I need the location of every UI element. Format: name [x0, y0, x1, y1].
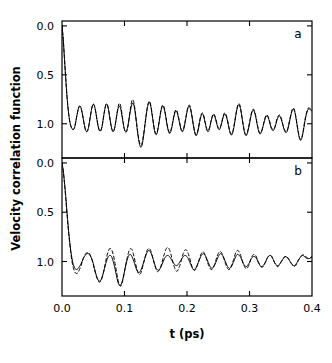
- curves-b: [62, 163, 312, 286]
- panel-frame-a: [62, 21, 312, 158]
- y-tick-label-a-1: 0.5: [37, 69, 55, 82]
- x-tick-label-2: 0.2: [178, 302, 196, 315]
- y-tick-label-b-2: 0.0: [37, 157, 55, 170]
- curve-a-solid: [62, 26, 312, 147]
- velocity-correlation-figure: a1.00.50.0b1.00.50.00.00.10.20.30.4t (ps…: [0, 0, 332, 363]
- y-tick-label-a-2: 0.0: [37, 20, 55, 33]
- plot-canvas: a1.00.50.0b1.00.50.00.00.10.20.30.4t (ps…: [0, 0, 332, 363]
- curves-a: [62, 26, 312, 147]
- panel-tag-b: b: [294, 164, 302, 178]
- panel-tag-a: a: [294, 27, 301, 41]
- y-axis-title: Velocity correlation function: [9, 66, 23, 250]
- y-tick-label-b-0: 1.0: [37, 256, 55, 269]
- x-tick-label-1: 0.1: [116, 302, 134, 315]
- x-tick-label-4: 0.4: [303, 302, 321, 315]
- x-tick-label-3: 0.3: [241, 302, 259, 315]
- x-tick-label-0: 0.0: [53, 302, 71, 315]
- panel-a: a1.00.50.0: [37, 20, 313, 158]
- y-tick-label-b-1: 0.5: [37, 206, 55, 219]
- panel-frame-b: [62, 158, 312, 296]
- panel-b: b1.00.50.0: [37, 157, 313, 296]
- curve-b-solid: [62, 163, 312, 286]
- x-axis-title: t (ps): [169, 327, 204, 341]
- curve-b-dashed: [62, 163, 312, 286]
- y-tick-label-a-0: 1.0: [37, 118, 55, 131]
